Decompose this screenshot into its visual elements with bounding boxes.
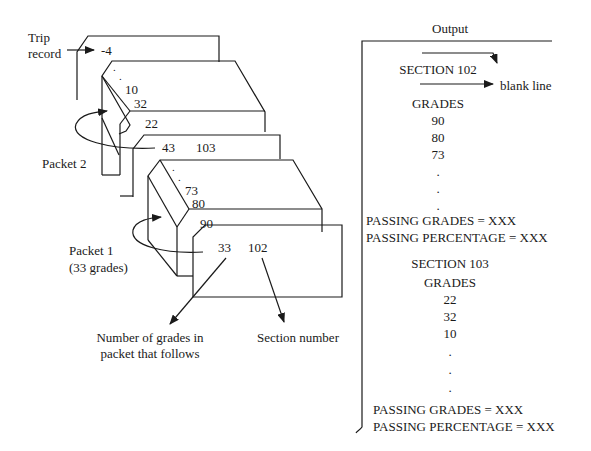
packet1-section: 102 bbox=[248, 240, 268, 255]
section-heading: SECTION 103 bbox=[375, 256, 525, 271]
grade-value: 22 bbox=[375, 292, 525, 307]
blank-line-label: blank line bbox=[500, 78, 552, 93]
count-callout-line1: Number of grades in bbox=[90, 330, 210, 346]
ellipsis-dot: . bbox=[375, 380, 525, 395]
section-callout-label: Section number bbox=[257, 330, 339, 345]
grade-value: 32 bbox=[375, 309, 525, 324]
packet1-header-card bbox=[193, 225, 342, 297]
trip-record-label: Trip record bbox=[28, 30, 61, 62]
packet1-ellipsis-2: . bbox=[178, 170, 181, 185]
packet1-label-line2: (33 grades) bbox=[69, 259, 128, 276]
grade-value: 10 bbox=[375, 326, 525, 341]
passing-percentage-102: PASSING PERCENTAGE = XXX bbox=[366, 230, 548, 245]
count-callout-arrow bbox=[170, 258, 226, 324]
ellipsis-dot: . bbox=[375, 362, 525, 377]
packet1-label: Packet 1 (33 grades) bbox=[69, 242, 128, 276]
grades-heading: GRADES bbox=[375, 275, 525, 290]
grade-value: 73 bbox=[364, 147, 512, 162]
packet2-count: 43 bbox=[162, 140, 175, 155]
packet2-label: Packet 2 bbox=[42, 156, 86, 171]
packet1-ellipsis-1: . bbox=[172, 160, 175, 175]
packet2-grade-22: 22 bbox=[145, 116, 158, 131]
packet2-ellipsis-2: . bbox=[119, 69, 122, 84]
packet1-count: 33 bbox=[218, 240, 231, 255]
ellipsis-dot: . bbox=[364, 198, 512, 213]
packet1-label-line1: Packet 1 bbox=[69, 242, 128, 259]
ellipsis-dot: . bbox=[375, 344, 525, 359]
packet1-grade-90: 90 bbox=[200, 216, 213, 231]
count-callout-line2: packet that follows bbox=[90, 346, 210, 362]
grade-value: 80 bbox=[364, 130, 512, 145]
passing-percentage-103: PASSING PERCENTAGE = XXX bbox=[373, 419, 555, 434]
packet2-ellipsis-1: . bbox=[113, 60, 116, 75]
trip-record-value: -4 bbox=[101, 43, 112, 58]
passing-grades-103: PASSING GRADES = XXX bbox=[373, 402, 523, 417]
grade-value: 90 bbox=[364, 113, 512, 128]
section-heading: SECTION 102 bbox=[364, 62, 512, 77]
passing-grades-102: PASSING GRADES = XXX bbox=[366, 213, 516, 228]
count-callout-label: Number of grades in packet that follows bbox=[90, 330, 210, 362]
packet1-grade-80: 80 bbox=[192, 196, 205, 211]
packet2-section: 103 bbox=[196, 140, 216, 155]
trip-record-card bbox=[77, 36, 219, 100]
trip-record-label-line2: record bbox=[28, 46, 61, 62]
section-callout-arrow bbox=[262, 258, 284, 322]
ellipsis-dot: . bbox=[364, 181, 512, 196]
packet2-loop-arrow bbox=[75, 111, 155, 148]
trip-record-label-line1: Trip bbox=[28, 30, 61, 46]
output-title: Output bbox=[432, 21, 468, 36]
packet2-grade-32: 32 bbox=[134, 96, 147, 111]
grades-heading: GRADES bbox=[364, 96, 512, 111]
packet2-grade-10: 10 bbox=[125, 82, 138, 97]
ellipsis-dot: . bbox=[364, 164, 512, 179]
